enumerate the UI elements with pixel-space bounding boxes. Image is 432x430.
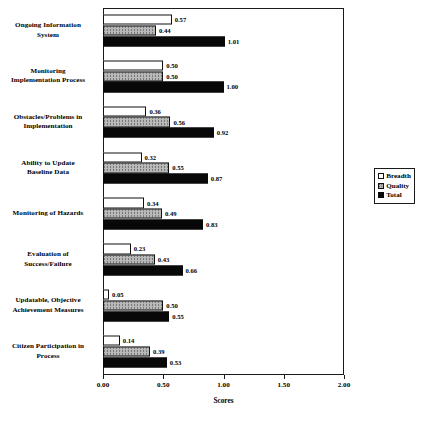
bar-breadth: [103, 60, 163, 70]
bar-value-label: 0.50: [166, 62, 178, 69]
bar-row: 0.44: [103, 25, 344, 35]
bar-value-label: 0.39: [153, 348, 165, 355]
bar-row: 0.50: [103, 71, 344, 81]
bar-value-label: 0.23: [134, 245, 146, 252]
bar-row: 0.66: [103, 265, 344, 275]
bar-value-label: 0.87: [211, 175, 223, 182]
bar-value-label: 0.55: [172, 313, 184, 320]
bar-value-label: 0.83: [206, 221, 218, 228]
bar-total: [103, 220, 203, 230]
legend-swatch-icon: [378, 192, 384, 198]
bar-value-label: 0.56: [173, 119, 185, 126]
x-tick-label: 1.50: [278, 381, 290, 389]
bar-breadth: [103, 290, 109, 300]
x-tick-label: 2.00: [338, 381, 350, 389]
chart-legend: BreadthQualityTotal: [374, 168, 415, 204]
bar-row: 0.50: [103, 300, 344, 310]
category-group: Updatable, ObjectiveAchievement Measures…: [103, 283, 344, 329]
x-tick-mark: [103, 375, 104, 379]
bar-quality: [103, 25, 156, 35]
category-label: Citizen Participation inProcess: [0, 342, 98, 361]
bar-row: 0.14: [103, 336, 344, 346]
category-label: Updatable, ObjectiveAchievement Measures: [0, 297, 98, 316]
bar-total: [103, 82, 224, 92]
x-tick-label: 1.00: [217, 381, 229, 389]
bar-row: 0.32: [103, 152, 344, 162]
legend-label: Total: [386, 191, 402, 199]
bar-row: 0.23: [103, 244, 344, 254]
bar-quality: [103, 117, 170, 127]
category-group: Obstacles/Problems inImplementation0.360…: [103, 100, 344, 146]
bar-breadth: [103, 152, 142, 162]
bar-group: 0.500.501.00: [103, 60, 344, 93]
bar-value-label: 1.00: [227, 83, 239, 90]
bar-breadth: [103, 106, 146, 116]
legend-swatch-icon: [378, 183, 384, 189]
x-tick-label: 0.00: [97, 381, 109, 389]
category-group: Ability to UpdateBaseline Data0.320.550.…: [103, 146, 344, 192]
bar-row: 0.92: [103, 128, 344, 138]
bar-breadth: [103, 244, 131, 254]
bar-row: 1.01: [103, 36, 344, 46]
bar-group: 0.230.430.66: [103, 244, 344, 277]
category-label: Evaluation ofSuccess/Failure: [0, 251, 98, 270]
category-label: MonitoringImplementation Process: [0, 67, 98, 86]
bar-row: 0.57: [103, 14, 344, 24]
bar-value-label: 0.50: [166, 73, 178, 80]
category-group: Monitoring of Hazards0.340.490.83: [103, 192, 344, 238]
bar-row: 0.56: [103, 117, 344, 127]
bar-breadth: [103, 14, 172, 24]
x-axis: 0.000.501.001.502.00: [103, 375, 344, 376]
bar-group: 0.340.490.83: [103, 198, 344, 231]
bar-breadth: [103, 198, 144, 208]
bar-quality: [103, 346, 150, 356]
category-label: Ongoing InformationSystem: [0, 21, 98, 40]
bar-value-label: 0.34: [147, 200, 159, 207]
x-tick-mark: [284, 375, 285, 379]
bar-value-label: 1.01: [228, 38, 240, 45]
bar-total: [103, 357, 167, 367]
bar-value-label: 0.50: [166, 302, 178, 309]
bar-quality: [103, 71, 163, 81]
bar-value-label: 0.55: [172, 164, 184, 171]
legend-label: Quality: [386, 182, 409, 190]
bar-row: 0.34: [103, 198, 344, 208]
bar-value-label: 0.14: [123, 337, 135, 344]
bar-value-label: 0.92: [217, 129, 229, 136]
bar-value-label: 0.43: [158, 256, 170, 263]
bar-total: [103, 265, 183, 275]
bar-row: 0.50: [103, 60, 344, 70]
bar-row: 0.49: [103, 209, 344, 219]
bar-group: 0.320.550.87: [103, 152, 344, 185]
bar-row: 1.00: [103, 82, 344, 92]
bar-value-label: 0.44: [159, 27, 171, 34]
bar-group: 0.570.441.01: [103, 14, 344, 47]
bar-group: 0.050.500.55: [103, 290, 344, 323]
bar-row: 0.53: [103, 357, 344, 367]
bar-row: 0.83: [103, 220, 344, 230]
legend-item-breadth: Breadth: [378, 172, 411, 182]
bar-value-label: 0.36: [149, 108, 161, 115]
x-tick-mark: [344, 375, 345, 379]
x-tick-label: 0.50: [157, 381, 169, 389]
category-group: Ongoing InformationSystem0.570.441.01: [103, 8, 344, 54]
bar-row: 0.05: [103, 290, 344, 300]
bar-row: 0.39: [103, 346, 344, 356]
bar-row: 0.55: [103, 163, 344, 173]
bar-value-label: 0.05: [112, 291, 124, 298]
bar-value-label: 0.53: [170, 359, 182, 366]
bar-value-label: 0.49: [165, 210, 177, 217]
bar-value-label: 0.32: [145, 154, 157, 161]
x-tick-mark: [224, 375, 225, 379]
bar-quality: [103, 255, 155, 265]
bar-group: 0.140.390.53: [103, 336, 344, 369]
bar-group: 0.360.560.92: [103, 106, 344, 139]
bar-total: [103, 36, 225, 46]
bar-row: 0.55: [103, 311, 344, 321]
bar-quality: [103, 209, 162, 219]
bar-total: [103, 128, 214, 138]
category-group: Evaluation ofSuccess/Failure0.230.430.66: [103, 237, 344, 283]
bar-total: [103, 311, 169, 321]
legend-item-quality: Quality: [378, 181, 411, 191]
category-group: MonitoringImplementation Process0.500.50…: [103, 54, 344, 100]
